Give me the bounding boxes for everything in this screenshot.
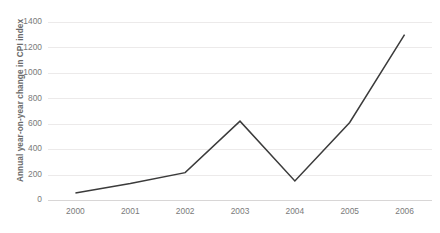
y-tick-label: 1200 <box>23 42 42 52</box>
y-tick-label: 0 <box>37 194 42 204</box>
x-tick-label: 2003 <box>231 206 250 216</box>
y-tick-label: 800 <box>28 93 42 103</box>
y-tick-label: 1400 <box>23 16 42 26</box>
x-tick-label: 2000 <box>66 206 85 216</box>
x-tick-label: 2001 <box>121 206 140 216</box>
x-tick-label: 2006 <box>395 206 414 216</box>
y-tick-label: 400 <box>28 143 42 153</box>
x-tick-label: 2004 <box>286 206 305 216</box>
x-tick-label: 2002 <box>176 206 195 216</box>
y-tick-label: 1000 <box>23 67 42 77</box>
x-tick-label: 2005 <box>340 206 359 216</box>
x-tick-labels: 2000200120022003200420052006 <box>66 206 414 216</box>
line-chart: Annual year-on-year change in CPI index … <box>0 0 440 233</box>
plot-area: 0200400600800100012001400 20002001200220… <box>0 0 440 233</box>
gridlines <box>48 23 432 176</box>
y-tick-label: 600 <box>28 118 42 128</box>
data-series-line <box>75 35 404 193</box>
y-tick-labels: 0200400600800100012001400 <box>23 16 42 204</box>
y-tick-label: 200 <box>28 169 42 179</box>
